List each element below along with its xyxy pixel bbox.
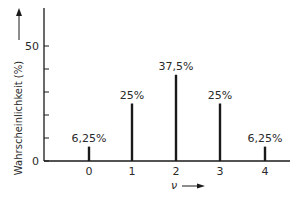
y-tick-label: 0 xyxy=(32,155,39,168)
data-label: 6,25% xyxy=(72,132,107,145)
x-axis-label: ν xyxy=(171,179,177,192)
x-tick-label: 3 xyxy=(217,165,224,178)
y-tick-label: 50 xyxy=(25,40,39,53)
x-tick-label: 1 xyxy=(129,165,136,178)
data-label: 37,5% xyxy=(159,60,194,73)
x-tick-label: 2 xyxy=(173,165,180,178)
y-axis-label: Wahrscheinlichkeit (%) xyxy=(13,61,24,175)
y-axis-arrow-icon xyxy=(16,8,22,16)
x-axis-arrow-icon xyxy=(197,184,205,189)
x-tick-label: 4 xyxy=(262,165,269,178)
probability-chart: 050Wahrscheinlichkeit (%)6,25%025%137,5%… xyxy=(0,0,300,198)
data-label: 6,25% xyxy=(248,132,283,145)
x-tick-label: 0 xyxy=(86,165,93,178)
data-label: 25% xyxy=(120,89,144,102)
data-label: 25% xyxy=(208,89,232,102)
